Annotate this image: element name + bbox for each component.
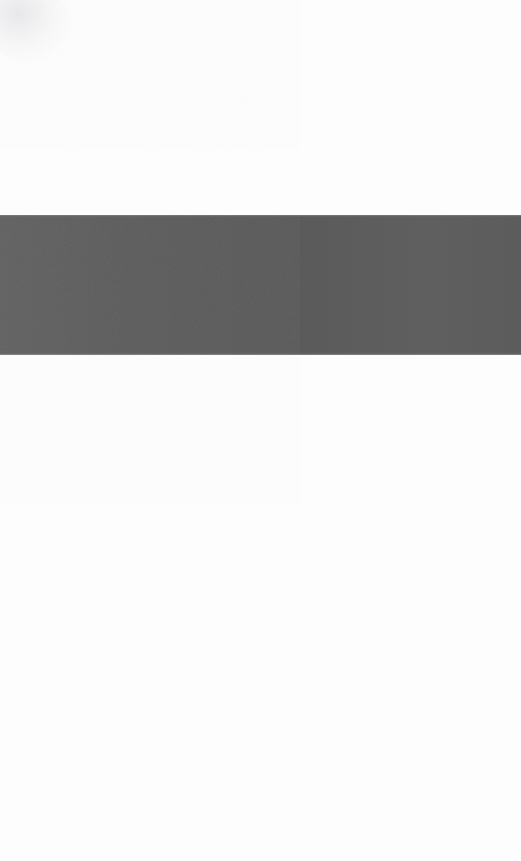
upper-field-grain (0, 0, 300, 150)
lower-field-grain (0, 355, 300, 505)
gray-band-top-edge (0, 215, 521, 218)
page-canvas (0, 0, 521, 861)
top-left-smudge (0, 0, 72, 62)
gray-band (0, 215, 521, 355)
gray-band-shading (0, 215, 521, 355)
upper-white-field (0, 0, 521, 215)
lower-white-field (0, 355, 521, 861)
gray-band-grain (0, 215, 300, 365)
